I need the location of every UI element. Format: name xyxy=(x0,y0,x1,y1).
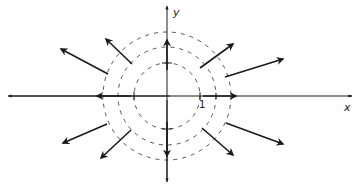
vector-arrow-up-right-outer xyxy=(225,59,283,77)
vector-arrow-down-left-outer xyxy=(63,124,107,143)
vector-arrow-down-right-inner xyxy=(202,128,233,155)
x-tick-label-1: 1 xyxy=(199,99,205,110)
y-axis-label: y xyxy=(173,6,180,19)
vector-arrow-down-left-inner xyxy=(101,130,131,158)
vector-arrow-up-left-inner xyxy=(106,39,132,64)
vector-field-diagram: x y 1 xyxy=(0,0,359,185)
x-axis-label: x xyxy=(344,101,351,114)
vector-arrow-down-right-outer xyxy=(226,123,283,144)
vector-arrow-up-right-inner xyxy=(200,44,233,68)
vector-arrow-up-left-outer xyxy=(61,49,108,74)
axes xyxy=(8,6,352,182)
vector-field-plot xyxy=(0,0,359,185)
vectors xyxy=(61,39,283,158)
